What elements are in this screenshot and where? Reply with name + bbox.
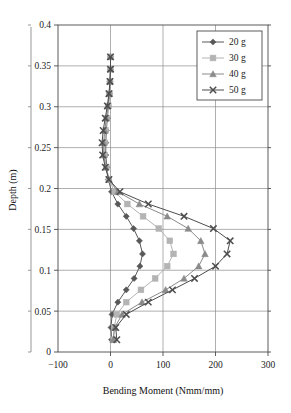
legend-label: 30 g	[229, 53, 246, 63]
data-point-marker-square	[171, 251, 177, 257]
data-point-marker-diamond	[131, 275, 137, 281]
legend-label: 20 g	[229, 37, 246, 47]
x-tick-label: 200	[208, 360, 223, 370]
legend-label: 40 g	[229, 69, 246, 79]
data-point-marker-triangle	[185, 225, 192, 231]
data-point-marker-cross	[145, 299, 151, 305]
data-point-marker-square	[123, 299, 129, 305]
data-point-marker-triangle	[195, 263, 202, 269]
data-point-marker-cross	[227, 238, 233, 244]
data-point-marker-diamond	[136, 238, 142, 244]
x-tick-label: −100	[48, 360, 68, 370]
x-axis-title: Bending Moment (Nmm/mm)	[103, 385, 224, 397]
data-point-marker-diamond	[123, 287, 129, 293]
y-tick-label: 0.35	[34, 61, 51, 71]
data-point-marker-triangle	[202, 251, 209, 257]
data-point-marker-square	[138, 287, 144, 293]
chart-legend: 20 g30 g40 g50 g	[197, 31, 262, 100]
data-point-marker-cross	[181, 213, 187, 219]
y-tick-label: 0.4	[39, 20, 51, 30]
data-point-marker-diamond	[131, 225, 137, 231]
data-point-marker-square	[167, 238, 173, 244]
x-axis-tick-labels: −1000100200300	[48, 360, 275, 370]
data-point-marker-diamond	[137, 263, 143, 269]
data-point-marker-square	[152, 276, 158, 282]
data-point-marker-diamond	[115, 201, 121, 207]
data-point-marker-diamond	[123, 213, 129, 219]
data-point-marker-cross	[224, 251, 230, 257]
data-point-marker-triangle	[164, 213, 171, 219]
y-tick-label: 0.05	[34, 307, 51, 317]
y-tick-label: 0.3	[39, 102, 51, 112]
bending-moment-depth-chart: −1000100200300 00.050.10.150.20.250.30.3…	[0, 0, 291, 413]
y-tick-label: 0.2	[39, 184, 51, 194]
data-point-marker-square	[140, 213, 146, 219]
y-axis-tick-labels: 00.050.10.150.20.250.30.350.4	[34, 20, 51, 357]
data-point-marker-cross	[169, 287, 175, 293]
data-point-marker-cross	[145, 201, 151, 207]
data-point-marker-cross	[191, 275, 197, 281]
x-tick-label: 0	[108, 360, 113, 370]
y-axis-title: Depth (m)	[7, 169, 19, 210]
legend-label: 50 g	[229, 85, 246, 95]
y-tick-label: 0	[46, 347, 51, 357]
x-tick-label: 100	[156, 360, 171, 370]
series-line	[106, 57, 143, 340]
data-point-marker-square	[124, 201, 130, 207]
data-point-marker-square	[114, 311, 120, 317]
series-line	[104, 57, 205, 340]
data-point-marker-square	[156, 226, 162, 232]
x-tick-label: 300	[261, 360, 276, 370]
data-point-marker-square	[164, 263, 170, 269]
y-tick-label: 0.15	[34, 225, 51, 235]
data-point-marker-diamond	[115, 299, 121, 305]
y-tick-label: 0.25	[34, 143, 51, 153]
series-30-g	[102, 54, 177, 343]
y-tick-label: 0.1	[39, 266, 51, 276]
data-point-marker-square	[210, 55, 216, 61]
chart-canvas: −1000100200300 00.050.10.150.20.250.30.3…	[0, 0, 291, 413]
data-point-marker-diamond	[139, 251, 145, 257]
